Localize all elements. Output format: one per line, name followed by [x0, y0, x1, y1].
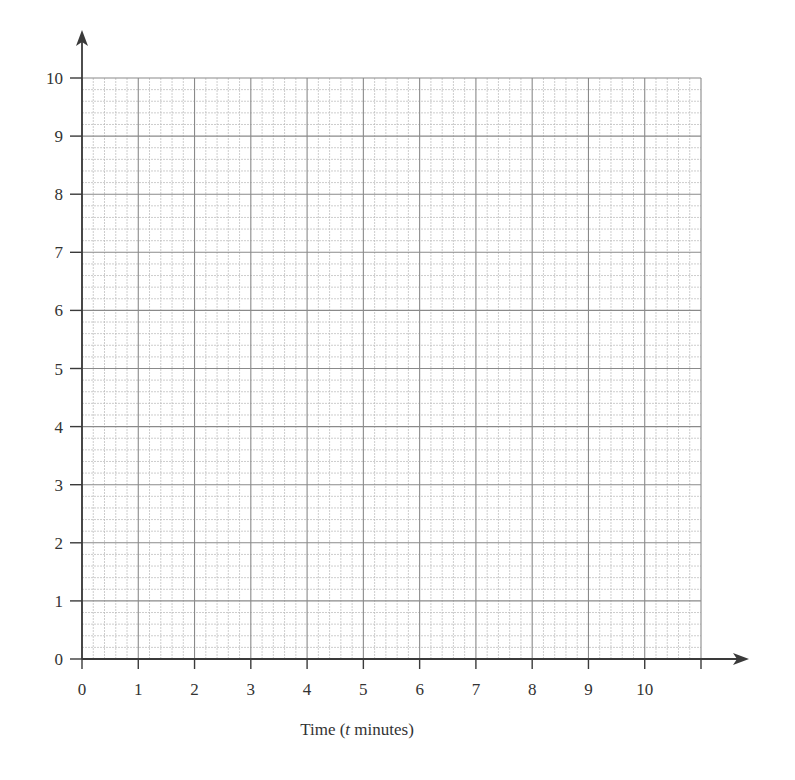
x-tick-label: 3 — [247, 680, 256, 699]
major-grid — [82, 78, 701, 659]
y-tick-label: 9 — [55, 127, 64, 146]
y-tick-label: 7 — [55, 243, 64, 262]
y-tick-label: 10 — [46, 69, 63, 88]
x-tick-label: 5 — [359, 680, 368, 699]
y-tick-label: 3 — [55, 476, 64, 495]
y-tick-label: 2 — [55, 534, 64, 553]
x-tick-label: 8 — [528, 680, 537, 699]
y-tick-label: 8 — [55, 185, 64, 204]
blank-graph-grid: 012345678910 012345678910 Time (t minute… — [0, 0, 795, 780]
y-tick-label: 5 — [55, 360, 64, 379]
x-tick-label: 7 — [472, 680, 481, 699]
x-axis-title-prefix: Time ( — [300, 720, 346, 739]
y-tick-label: 6 — [55, 301, 64, 320]
x-tick-label: 1 — [134, 680, 143, 699]
x-tick-label: 4 — [303, 680, 312, 699]
x-axis-title: Time (t minutes) — [300, 720, 414, 739]
x-tick-label: 9 — [584, 680, 593, 699]
x-tick-label: 10 — [636, 680, 653, 699]
x-tick-label: 6 — [415, 680, 424, 699]
x-axis-ticks: 012345678910 — [78, 659, 701, 699]
x-axis-title-suffix: minutes) — [350, 720, 414, 739]
y-tick-label: 4 — [55, 418, 64, 437]
y-tick-label: 1 — [55, 592, 64, 611]
x-tick-label: 0 — [78, 680, 87, 699]
x-tick-label: 2 — [190, 680, 199, 699]
y-axis-ticks: 012345678910 — [46, 69, 82, 669]
axes — [76, 30, 749, 665]
y-tick-label: 0 — [55, 650, 64, 669]
